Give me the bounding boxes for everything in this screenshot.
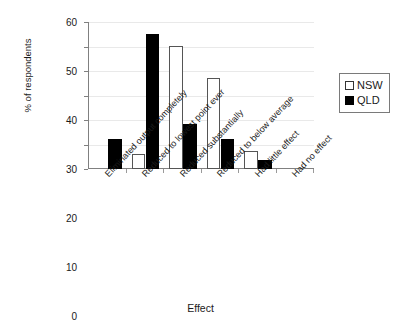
y-tick-label: 20 — [66, 213, 77, 224]
legend-item-qld: QLD — [345, 93, 383, 108]
bar-nsw — [244, 151, 258, 169]
y-tick-mark: 0 — [84, 169, 88, 170]
bar-qld — [146, 34, 160, 169]
y-tick-label: 0 — [71, 311, 77, 322]
bar-chart: % of respondents 0102030405060 Eliminate… — [0, 0, 412, 333]
y-tick-label: 40 — [66, 115, 77, 126]
legend-item-nsw: NSW — [345, 78, 383, 93]
y-tick-mark: 60 — [84, 22, 88, 23]
y-tick-label: 60 — [66, 17, 77, 28]
y-tick-mark: 20 — [84, 120, 88, 121]
x-axis-category-labels: Eliminated output completelyReduced to l… — [88, 172, 388, 267]
y-tick-mark: 30 — [84, 96, 88, 97]
legend-label-nsw: NSW — [357, 80, 383, 91]
legend: NSW QLD — [339, 73, 390, 113]
y-axis-title: % of respondents — [22, 11, 33, 141]
y-tick-mark: 50 — [84, 47, 88, 48]
legend-swatch-nsw-icon — [345, 81, 354, 90]
y-tick-label: 30 — [66, 164, 77, 175]
y-tick-mark: 40 — [84, 71, 88, 72]
x-axis-title: Effect — [88, 302, 313, 314]
legend-label-qld: QLD — [357, 95, 380, 106]
bar-group — [89, 22, 127, 169]
y-tick-mark: 10 — [84, 145, 88, 146]
y-tick-label: 50 — [66, 66, 77, 77]
y-tick-label: 10 — [66, 262, 77, 273]
legend-swatch-qld-icon — [345, 96, 354, 105]
